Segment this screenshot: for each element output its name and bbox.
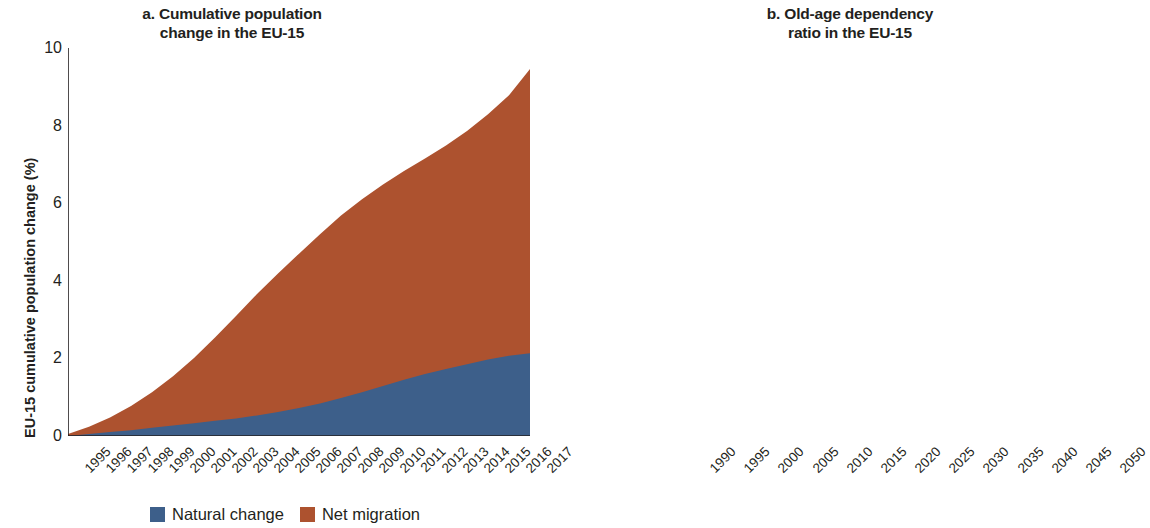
panel-a-y-tick-10: 10 [44, 39, 62, 57]
panel-a-x-tick-labels: 1995199619971998199920002001200220032004… [0, 442, 600, 502]
panel-b-x-tick-2020: 2020 [912, 444, 944, 476]
panel-a-y-tick-4: 4 [53, 272, 62, 290]
panel-b-title-line2: ratio in the EU-15 [788, 24, 912, 41]
figure-two-panel-chart: a. Cumulative population change in the E… [0, 0, 1150, 528]
panel-a-y-tick-labels: 0246810 [22, 48, 62, 436]
legend-item-net-migration[interactable]: Net migration [300, 505, 420, 524]
panel-b-x-tick-2045: 2045 [1083, 444, 1115, 476]
panel-b-x-tick-2030: 2030 [980, 444, 1012, 476]
panel-b-x-tick-2040: 2040 [1048, 444, 1080, 476]
panel-a-legend: Natural changeNet migration [150, 505, 420, 524]
panel-a-y-tick-2: 2 [53, 349, 62, 367]
legend-swatch-icon [300, 507, 315, 522]
panel-b-x-tick-1990: 1990 [707, 444, 739, 476]
panel-b-old-age-dependency-ratio: b. Old-age dependency ratio in the EU-15… [600, 0, 1150, 528]
panel-a-title: a. Cumulative population change in the E… [22, 4, 442, 42]
panel-a-plot-area [68, 48, 530, 436]
legend-label: Natural change [172, 505, 284, 524]
panel-b-x-tick-2005: 2005 [809, 444, 841, 476]
panel-b-x-tick-2035: 2035 [1014, 444, 1046, 476]
panel-b-x-tick-1995: 1995 [741, 444, 773, 476]
panel-a-y-tick-6: 6 [53, 194, 62, 212]
legend-label: Net migration [322, 505, 420, 524]
panel-b-title-line1: b. Old-age dependency [767, 5, 933, 22]
panel-a-title-line1: a. Cumulative population [142, 5, 322, 22]
panel-b-x-tick-labels: 1990199520002005201020152020202520302035… [600, 442, 1150, 502]
panel-b-x-tick-2050: 2050 [1117, 444, 1149, 476]
panel-a-title-line2: change in the EU-15 [160, 24, 304, 41]
panel-b-x-tick-2015: 2015 [878, 444, 910, 476]
panel-b-x-tick-2010: 2010 [843, 444, 875, 476]
panel-a-y-tick-8: 8 [53, 117, 62, 135]
panel-a-cumulative-population-change: a. Cumulative population change in the E… [0, 0, 600, 528]
panel-b-x-tick-2000: 2000 [775, 444, 807, 476]
legend-item-natural-change[interactable]: Natural change [150, 505, 284, 524]
panel-b-title: b. Old-age dependency ratio in the EU-15 [660, 4, 1040, 42]
panel-b-x-tick-2025: 2025 [946, 444, 978, 476]
legend-swatch-icon [150, 507, 165, 522]
